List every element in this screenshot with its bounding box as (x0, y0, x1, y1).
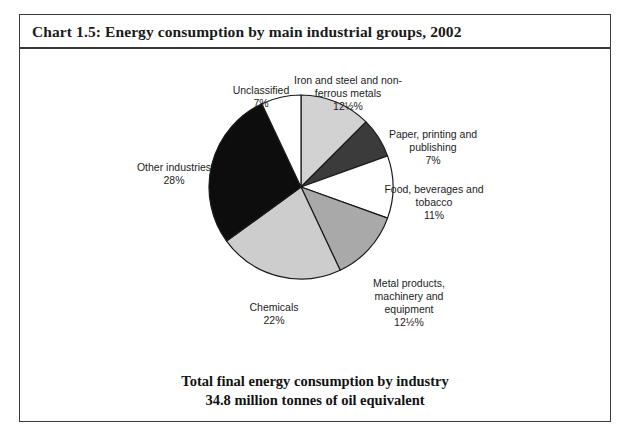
slice-label-unclassified-text: Unclassified (233, 84, 290, 96)
slice-label-chemicals-pct: 22% (215, 314, 333, 327)
slice-label-chemicals: Chemicals 22% (215, 288, 333, 340)
chart-footnote: Total final energy consumption by indust… (20, 372, 610, 410)
pie-chart: Iron and steel and non- ferrous metals 1… (20, 15, 612, 423)
slice-label-metal: Metal products, machinery and equipment … (350, 264, 468, 342)
slice-label-chemicals-text: Chemicals (249, 301, 298, 313)
chart-panel: Chart 1.5: Energy consumption by main in… (19, 14, 611, 422)
slice-label-unclassified: Unclassified 7% (206, 71, 316, 123)
slice-label-other-text: Other industries (137, 161, 211, 173)
footnote-line-1: Total final energy consumption by indust… (20, 372, 610, 391)
slice-label-paper-pct: 7% (368, 154, 498, 167)
slice-label-food: Food, beverages and tobacco 11% (364, 170, 504, 235)
slice-label-food-pct: 11% (364, 209, 504, 222)
slice-label-food-text: Food, beverages and tobacco (384, 183, 483, 208)
slice-label-metal-text: Metal products, machinery and equipment (373, 277, 445, 315)
slice-label-metal-pct: 12½% (350, 316, 468, 329)
slice-label-other-pct: 28% (111, 174, 237, 187)
slice-label-unclassified-pct: 7% (206, 97, 316, 110)
slice-label-paper-text: Paper, printing and publishing (389, 128, 477, 153)
slice-label-other: Other industries 28% (111, 148, 237, 200)
footnote-line-2: 34.8 million tonnes of oil equivalent (20, 391, 610, 410)
